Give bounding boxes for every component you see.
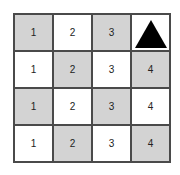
cell-r1-c1: 1 <box>14 14 53 51</box>
cell-r4-c4: 4 <box>131 125 170 162</box>
cell-r4-c3: 3 <box>92 125 131 162</box>
cell-r2-c2: 2 <box>53 51 92 88</box>
cell-label: 1 <box>31 27 37 38</box>
triangle-icon <box>135 20 167 48</box>
cell-label: 3 <box>109 64 115 75</box>
cell-r3-c4: 4 <box>131 88 170 125</box>
number-grid: 1 2 3 1 2 3 4 1 2 3 4 1 2 3 4 <box>13 13 171 163</box>
cell-r1-c3: 3 <box>92 14 131 51</box>
cell-label: 2 <box>70 138 76 149</box>
cell-r4-c2: 2 <box>53 125 92 162</box>
cell-label: 1 <box>31 64 37 75</box>
cell-r2-c1: 1 <box>14 51 53 88</box>
cell-label: 1 <box>31 138 37 149</box>
cell-label: 1 <box>31 101 37 112</box>
cell-label: 2 <box>70 64 76 75</box>
cell-label: 3 <box>109 27 115 38</box>
cell-label: 3 <box>109 101 115 112</box>
cell-r3-c1: 1 <box>14 88 53 125</box>
cell-r3-c3: 3 <box>92 88 131 125</box>
cell-label: 4 <box>148 101 154 112</box>
cell-r1-c2: 2 <box>53 14 92 51</box>
cell-label: 2 <box>70 101 76 112</box>
cell-label: 2 <box>70 27 76 38</box>
cell-r2-c3: 3 <box>92 51 131 88</box>
cell-r1-c4 <box>131 14 170 51</box>
cell-label: 3 <box>109 138 115 149</box>
cell-r3-c2: 2 <box>53 88 92 125</box>
cell-r2-c4: 4 <box>131 51 170 88</box>
cell-label: 4 <box>148 138 154 149</box>
cell-label: 4 <box>148 64 154 75</box>
cell-r4-c1: 1 <box>14 125 53 162</box>
